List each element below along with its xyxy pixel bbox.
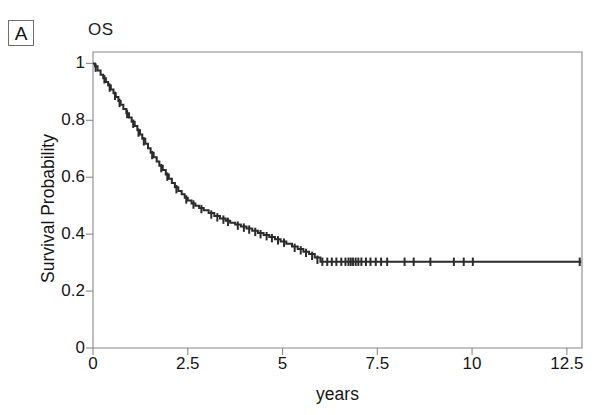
- censor-marks: [96, 63, 580, 266]
- axes-frame: [93, 52, 582, 348]
- axis-ticks: [86, 63, 567, 355]
- survival-step-path: [93, 63, 581, 261]
- survival-curve-line: [93, 63, 581, 261]
- plot-area: [0, 0, 603, 415]
- survival-curve-figure: A OS Survival Probability years 00.20.40…: [0, 0, 603, 415]
- plot-frame: [93, 52, 582, 348]
